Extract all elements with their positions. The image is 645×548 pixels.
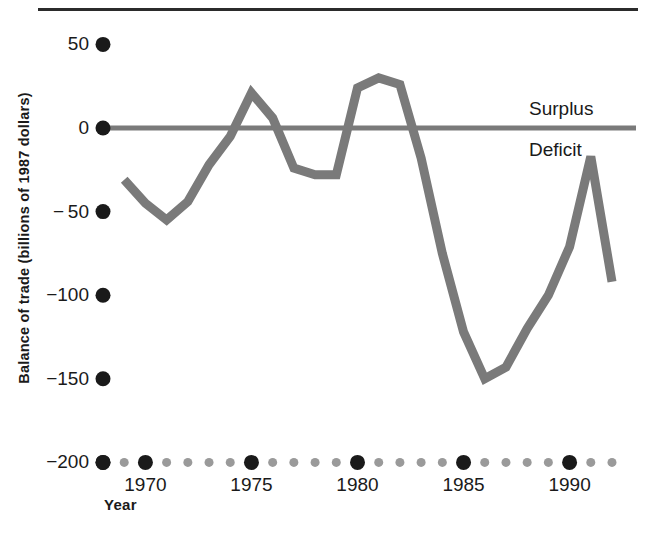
x-minor-tick-dot-1989 bbox=[544, 458, 553, 467]
x-minor-tick-dot-1979 bbox=[332, 458, 341, 467]
y-tick-dot-50 bbox=[96, 37, 111, 52]
y-tick-label--100: −100 bbox=[19, 285, 89, 304]
surplus-region-label: Surplus bbox=[529, 99, 593, 118]
y-tick-dot--150 bbox=[96, 371, 111, 386]
x-minor-tick-dot-1972 bbox=[183, 458, 192, 467]
x-major-tick-dot-1970 bbox=[138, 455, 153, 470]
x-minor-tick-dot-1986 bbox=[480, 458, 489, 467]
x-minor-tick-dot-1971 bbox=[162, 458, 171, 467]
y-tick-label-0: 0 bbox=[19, 118, 89, 137]
y-tick-dot--50 bbox=[96, 204, 111, 219]
y-tick-dot--100 bbox=[96, 288, 111, 303]
trade-balance-line-chart bbox=[0, 0, 645, 548]
x-tick-label-1975: 1975 bbox=[211, 475, 291, 494]
x-tick-label-1990: 1990 bbox=[530, 475, 610, 494]
chart-plot-area: Balance of trade (billions of 1987 dolla… bbox=[0, 0, 645, 548]
x-minor-tick-dot-1987 bbox=[501, 458, 510, 467]
y-tick-dot--200 bbox=[96, 455, 111, 470]
x-tick-label-1980: 1980 bbox=[318, 475, 398, 494]
y-axis-title: Balance of trade (billions of 1987 dolla… bbox=[16, 18, 32, 458]
x-minor-tick-dot-1973 bbox=[205, 458, 214, 467]
x-minor-tick-dot-1976 bbox=[268, 458, 277, 467]
x-minor-tick-dot-1974 bbox=[226, 458, 235, 467]
x-major-tick-dot-1990 bbox=[562, 455, 577, 470]
data-series-line-0 bbox=[124, 78, 612, 379]
y-tick-label--200: −200 bbox=[19, 452, 89, 471]
x-minor-tick-dot-1988 bbox=[523, 458, 532, 467]
x-minor-tick-dot-1969 bbox=[120, 458, 129, 467]
x-minor-tick-dot-1978 bbox=[311, 458, 320, 467]
x-minor-tick-dot-1984 bbox=[438, 458, 447, 467]
x-major-tick-dot-1975 bbox=[244, 455, 259, 470]
x-tick-label-1970: 1970 bbox=[105, 475, 185, 494]
x-minor-tick-dot-1983 bbox=[417, 458, 426, 467]
y-tick-label--50: − 50 bbox=[19, 202, 89, 221]
x-minor-tick-dot-1982 bbox=[395, 458, 404, 467]
x-minor-tick-dot-1981 bbox=[374, 458, 383, 467]
x-tick-label-1985: 1985 bbox=[424, 475, 504, 494]
x-minor-tick-dot-1992 bbox=[608, 458, 617, 467]
y-tick-label-50: 50 bbox=[19, 34, 89, 53]
x-major-tick-dot-1985 bbox=[456, 455, 471, 470]
y-tick-label--150: −150 bbox=[19, 369, 89, 388]
x-minor-tick-dot-1977 bbox=[289, 458, 298, 467]
x-major-tick-dot-1980 bbox=[350, 455, 365, 470]
x-axis-title: Year bbox=[104, 496, 137, 513]
x-minor-tick-dot-1991 bbox=[586, 458, 595, 467]
y-tick-dot-0 bbox=[96, 121, 111, 136]
deficit-region-label: Deficit bbox=[529, 140, 582, 159]
